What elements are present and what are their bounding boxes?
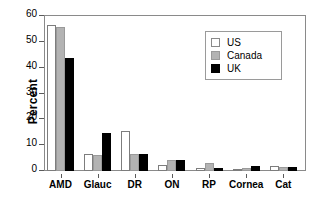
y-axis-tick-mark	[39, 144, 44, 145]
y-axis-tick-label: 60	[26, 8, 37, 19]
bar-cat-us	[270, 166, 279, 171]
y-axis-tick-mark	[39, 15, 44, 16]
bar-cornea-canada	[242, 168, 251, 171]
x-axis-tick-mark	[61, 174, 62, 178]
bar-group	[121, 16, 148, 171]
x-axis-tick-mark	[209, 174, 210, 178]
x-axis-tick-mark	[172, 174, 173, 178]
bar-amd-canada	[56, 27, 65, 171]
bar-chart: Percent 0102030405060 AMDGlaucDRONRPCorn…	[0, 0, 316, 203]
y-axis-tick-label: 0	[31, 163, 37, 174]
bar-glauc-canada	[93, 155, 102, 171]
bar-group	[158, 16, 185, 171]
bar-cat-canada	[279, 167, 288, 171]
bar-on-us	[158, 165, 167, 171]
bar-cornea-us	[233, 169, 242, 171]
y-axis-tick-label: 40	[26, 60, 37, 71]
legend-swatch-icon-uk	[211, 64, 220, 73]
legend-label-uk: UK	[227, 63, 241, 74]
y-axis-tick-label: 10	[26, 137, 37, 148]
bar-dr-uk	[139, 154, 148, 171]
x-axis-tick-mark	[135, 174, 136, 178]
bar-rp-canada	[205, 163, 214, 171]
x-axis-tick-mark	[283, 174, 284, 178]
y-axis-tick-label: 20	[26, 111, 37, 122]
legend-swatch-icon-canada	[211, 51, 220, 60]
bar-group	[84, 16, 111, 171]
legend-label-us: US	[227, 37, 241, 48]
legend-item-canada: Canada	[211, 49, 276, 62]
y-axis-tick-mark	[39, 170, 44, 171]
y-axis-tick-mark	[39, 93, 44, 94]
legend-label-canada: Canada	[227, 50, 262, 61]
y-axis-tick-label: 50	[26, 34, 37, 45]
bar-rp-uk	[214, 168, 223, 171]
y-axis-tick-label: 30	[26, 86, 37, 97]
legend-item-us: US	[211, 36, 276, 49]
y-axis-tick-mark	[39, 118, 44, 119]
x-axis-tick-mark	[98, 174, 99, 178]
x-axis-tick-mark	[246, 174, 247, 178]
bar-glauc-uk	[102, 133, 111, 171]
chart-legend: US Canada UK	[205, 31, 282, 80]
legend-swatch-icon-us	[211, 38, 220, 47]
y-axis-tick-mark	[39, 67, 44, 68]
x-axis-labels: AMDGlaucDRONRPCorneaCat	[45, 174, 305, 190]
bar-amd-uk	[65, 58, 74, 171]
bar-on-uk	[176, 160, 185, 171]
bar-dr-canada	[130, 154, 139, 171]
legend-item-uk: UK	[211, 62, 276, 75]
bar-glauc-us	[84, 154, 93, 171]
bar-on-canada	[167, 160, 176, 171]
bar-cornea-uk	[251, 166, 260, 171]
y-axis-tick-mark	[39, 41, 44, 42]
bar-group	[47, 16, 74, 171]
bar-dr-us	[121, 131, 130, 171]
bar-rp-us	[196, 168, 205, 171]
bar-amd-us	[47, 25, 56, 171]
x-axis-tick-label: Cat	[253, 179, 313, 190]
bar-cat-uk	[288, 167, 297, 171]
